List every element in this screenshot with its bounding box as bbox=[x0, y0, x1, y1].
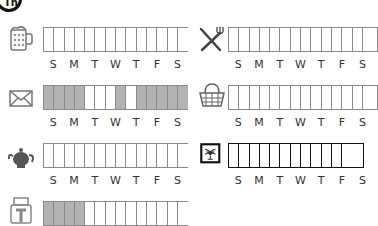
day-cell[interactable] bbox=[65, 28, 75, 51]
day-cell[interactable] bbox=[106, 202, 116, 225]
day-cell[interactable] bbox=[322, 86, 332, 109]
day-cell[interactable] bbox=[116, 86, 126, 109]
day-cell[interactable] bbox=[353, 86, 363, 109]
day-cell[interactable] bbox=[239, 28, 249, 51]
day-cell[interactable] bbox=[168, 144, 178, 167]
day-cell[interactable] bbox=[95, 28, 105, 51]
day-cell[interactable] bbox=[85, 86, 95, 109]
day-cell[interactable] bbox=[363, 86, 373, 109]
day-cell[interactable] bbox=[147, 144, 157, 167]
day-cell[interactable] bbox=[95, 86, 105, 109]
day-cell[interactable] bbox=[363, 28, 373, 51]
day-cell[interactable] bbox=[137, 28, 147, 51]
day-cell[interactable] bbox=[311, 86, 321, 109]
day-cell[interactable] bbox=[260, 144, 270, 167]
day-cell[interactable] bbox=[116, 28, 126, 51]
day-cell[interactable] bbox=[75, 144, 85, 167]
day-cell[interactable] bbox=[250, 28, 260, 51]
day-cell[interactable] bbox=[157, 28, 167, 51]
day-cell[interactable] bbox=[75, 202, 85, 225]
day-cell[interactable] bbox=[270, 28, 280, 51]
day-cell[interactable] bbox=[332, 86, 342, 109]
day-cell[interactable] bbox=[291, 86, 301, 109]
day-cell[interactable] bbox=[291, 28, 301, 51]
day-cell[interactable] bbox=[250, 86, 260, 109]
day-cell[interactable] bbox=[291, 144, 301, 167]
day-cell[interactable] bbox=[168, 86, 178, 109]
day-cell[interactable] bbox=[126, 202, 136, 225]
day-cell[interactable] bbox=[54, 28, 64, 51]
day-cell[interactable] bbox=[44, 86, 54, 109]
day-cell[interactable] bbox=[75, 28, 85, 51]
day-cell[interactable] bbox=[65, 144, 75, 167]
day-cell[interactable] bbox=[270, 86, 280, 109]
day-cell[interactable] bbox=[85, 202, 95, 225]
day-cell[interactable] bbox=[280, 144, 290, 167]
day-grid[interactable] bbox=[43, 85, 188, 110]
day-cell[interactable] bbox=[54, 86, 64, 109]
day-cell[interactable] bbox=[250, 144, 260, 167]
day-cell[interactable] bbox=[157, 86, 167, 109]
day-cell[interactable] bbox=[65, 86, 75, 109]
day-cell[interactable] bbox=[85, 144, 95, 167]
day-cell[interactable] bbox=[137, 86, 147, 109]
day-cell[interactable] bbox=[95, 202, 105, 225]
day-cell[interactable] bbox=[178, 86, 188, 109]
day-grid[interactable] bbox=[43, 201, 188, 226]
day-cell[interactable] bbox=[332, 144, 342, 167]
day-cell[interactable] bbox=[280, 28, 290, 51]
day-cell[interactable] bbox=[239, 86, 249, 109]
day-cell[interactable] bbox=[301, 28, 311, 51]
day-cell[interactable] bbox=[44, 202, 54, 225]
day-cell[interactable] bbox=[54, 202, 64, 225]
day-cell[interactable] bbox=[342, 144, 352, 167]
day-cell[interactable] bbox=[106, 86, 116, 109]
day-grid[interactable] bbox=[43, 27, 188, 52]
day-grid[interactable] bbox=[228, 27, 378, 52]
day-cell[interactable] bbox=[178, 202, 188, 225]
day-cell[interactable] bbox=[311, 28, 321, 51]
day-cell[interactable] bbox=[229, 28, 239, 51]
day-cell[interactable] bbox=[137, 144, 147, 167]
day-cell[interactable] bbox=[116, 202, 126, 225]
day-cell[interactable] bbox=[126, 28, 136, 51]
day-cell[interactable] bbox=[147, 86, 157, 109]
day-cell[interactable] bbox=[342, 86, 352, 109]
day-cell[interactable] bbox=[95, 144, 105, 167]
day-cell[interactable] bbox=[342, 28, 352, 51]
day-cell[interactable] bbox=[106, 144, 116, 167]
day-cell[interactable] bbox=[270, 144, 280, 167]
day-cell[interactable] bbox=[116, 144, 126, 167]
day-cell[interactable] bbox=[239, 144, 249, 167]
day-cell[interactable] bbox=[353, 28, 363, 51]
day-grid[interactable] bbox=[228, 143, 364, 168]
day-cell[interactable] bbox=[157, 144, 167, 167]
day-cell[interactable] bbox=[311, 144, 321, 167]
day-cell[interactable] bbox=[229, 144, 239, 167]
day-cell[interactable] bbox=[301, 86, 311, 109]
day-cell[interactable] bbox=[147, 28, 157, 51]
day-cell[interactable] bbox=[65, 202, 75, 225]
day-cell[interactable] bbox=[44, 28, 54, 51]
day-cell[interactable] bbox=[106, 28, 116, 51]
day-cell[interactable] bbox=[126, 144, 136, 167]
day-cell[interactable] bbox=[126, 86, 136, 109]
day-cell[interactable] bbox=[322, 28, 332, 51]
day-cell[interactable] bbox=[85, 28, 95, 51]
day-cell[interactable] bbox=[178, 28, 188, 51]
day-cell[interactable] bbox=[147, 202, 157, 225]
day-cell[interactable] bbox=[54, 144, 64, 167]
day-cell[interactable] bbox=[280, 86, 290, 109]
day-cell[interactable] bbox=[229, 86, 239, 109]
day-cell[interactable] bbox=[75, 86, 85, 109]
day-cell[interactable] bbox=[332, 28, 342, 51]
day-cell[interactable] bbox=[322, 144, 332, 167]
day-cell[interactable] bbox=[301, 144, 311, 167]
day-cell[interactable] bbox=[260, 86, 270, 109]
day-grid[interactable] bbox=[228, 85, 378, 110]
day-cell[interactable] bbox=[157, 202, 167, 225]
day-cell[interactable] bbox=[168, 202, 178, 225]
day-cell[interactable] bbox=[178, 144, 188, 167]
day-cell[interactable] bbox=[260, 28, 270, 51]
day-cell[interactable] bbox=[137, 202, 147, 225]
